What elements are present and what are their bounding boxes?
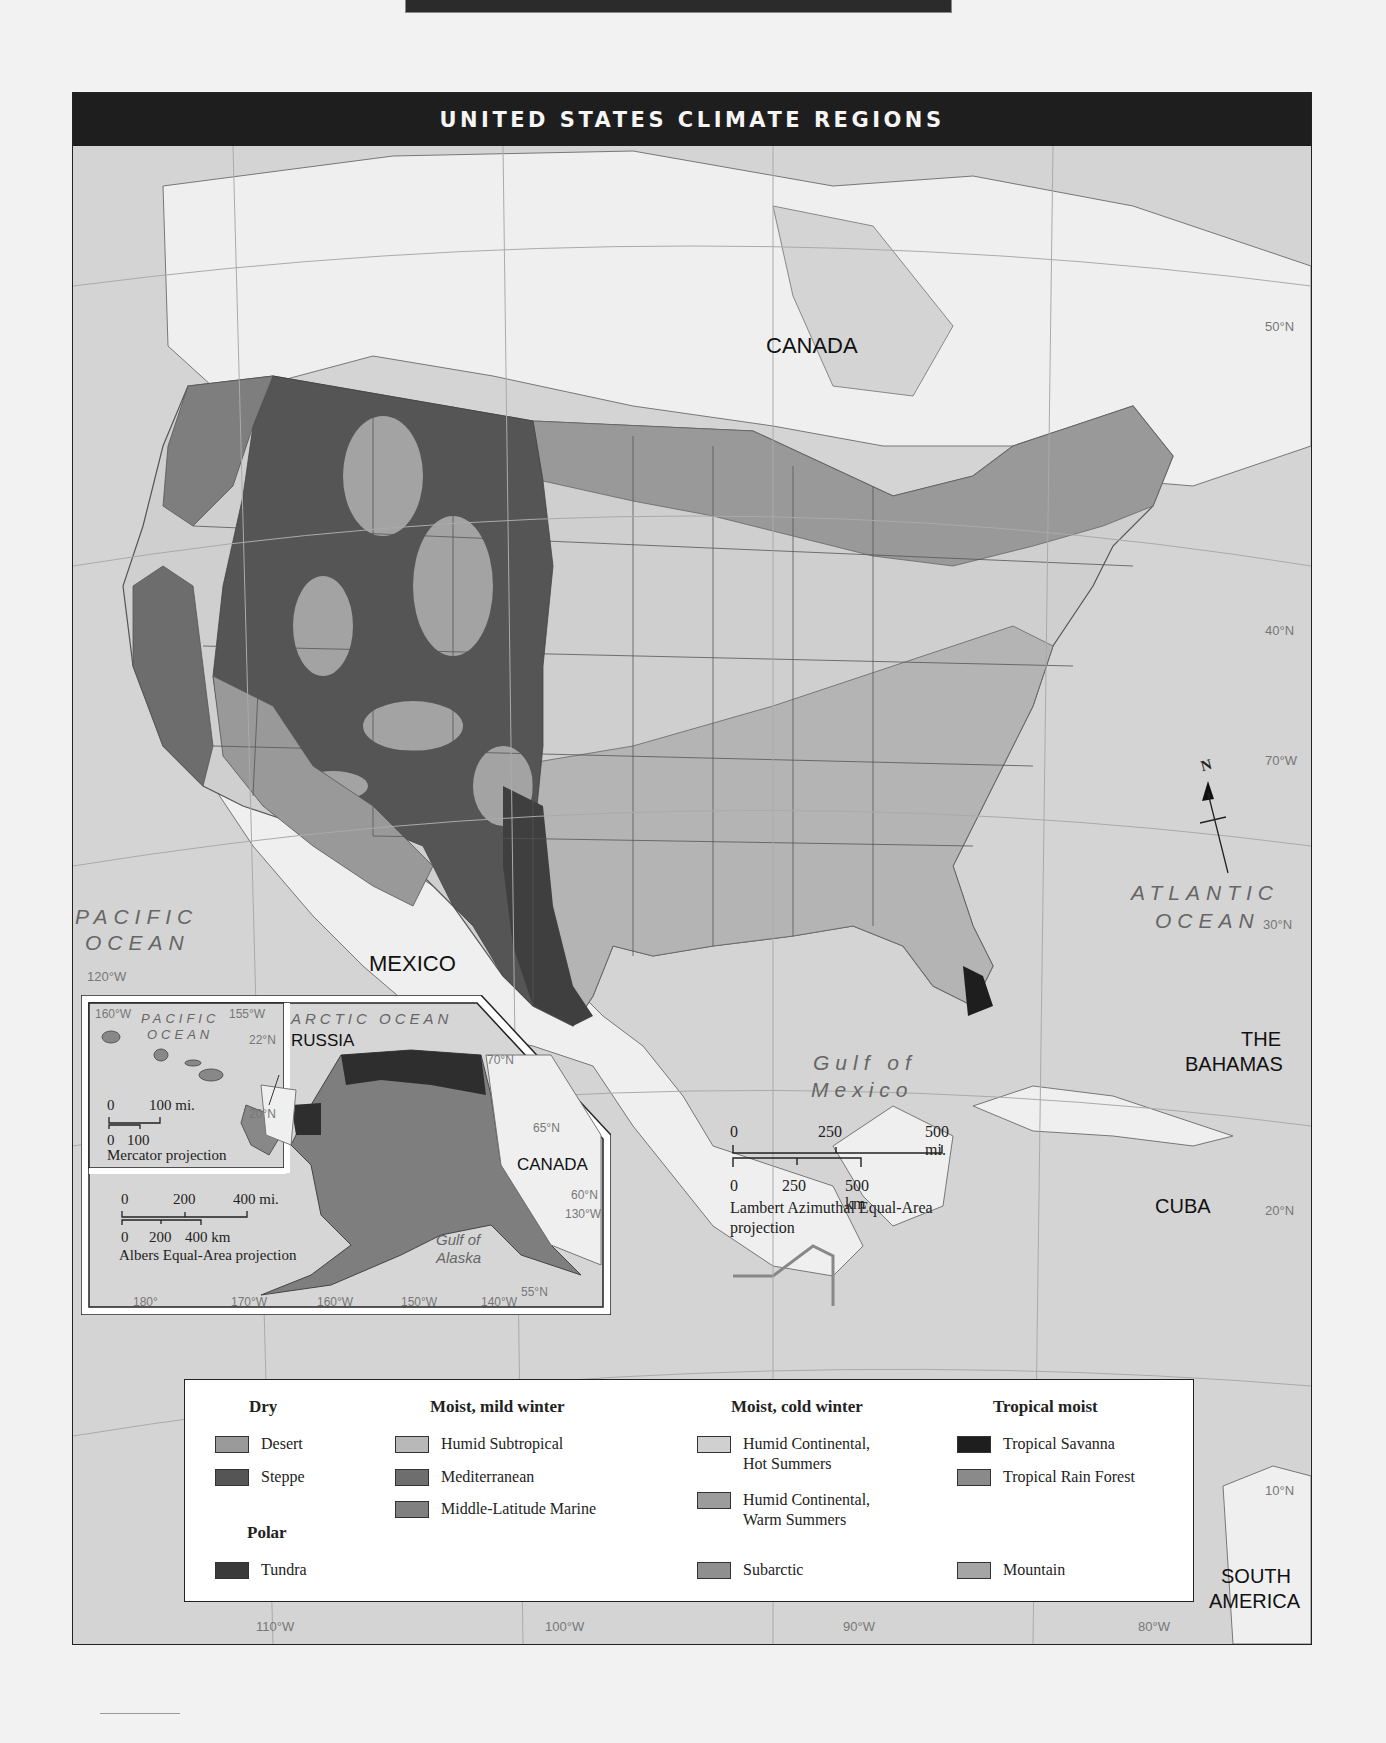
legend-item-humid-continental-hot: Humid Continental,Hot Summers — [697, 1434, 870, 1474]
label-south-america-2: AMERICA — [1209, 1590, 1300, 1613]
graticule-80w: 80°W — [1138, 1619, 1170, 1634]
scale-bar-graphic — [732, 1145, 952, 1175]
swatch-desert — [215, 1436, 249, 1453]
inset-hawaii-scale-mi-100: 100 mi. — [149, 1097, 195, 1114]
inset-alaska-projection: Albers Equal-Area projection — [119, 1247, 296, 1264]
label-canada: CANADA — [766, 333, 858, 359]
legend-item-subarctic: Subarctic — [697, 1560, 803, 1580]
swatch-mediterranean — [395, 1469, 429, 1486]
swatch-subarctic — [697, 1562, 731, 1579]
legend-heading-moist-mild-winter: Moist, mild winter — [430, 1397, 565, 1417]
label-gulf-of-mexico-1: Gulf of — [813, 1051, 917, 1075]
legend-item-humid-continental-warm: Humid Continental,Warm Summers — [697, 1490, 870, 1530]
label-atlantic-ocean-2: OCEAN — [1155, 909, 1260, 933]
legend-heading-moist-cold-winter: Moist, cold winter — [731, 1397, 863, 1417]
label-pacific-ocean-2: OCEAN — [85, 931, 190, 955]
compass-arrow-icon — [1198, 773, 1238, 883]
swatch-humid-continental-hot — [697, 1436, 731, 1453]
inset-55n: 55°N — [521, 1285, 548, 1299]
map-title: UNITED STATES CLIMATE REGIONS — [73, 93, 1311, 146]
graticule-10n: 10°N — [1265, 1483, 1294, 1498]
graticule-110w: 110°W — [256, 1619, 294, 1634]
scale-mi-0: 0 — [730, 1123, 738, 1141]
inset-alaska-scale-mi-400: 400 mi. — [233, 1191, 279, 1208]
swatch-tundra — [215, 1562, 249, 1579]
legend-item-steppe: Steppe — [215, 1467, 305, 1487]
inset-alaska-scale-km-200: 200 — [149, 1229, 172, 1246]
inset-gulf-of-alaska-2: Alaska — [436, 1249, 481, 1266]
legend: Dry Desert Steppe Polar Tundra Moist, mi… — [184, 1379, 1194, 1602]
legend-heading-dry: Dry — [249, 1397, 277, 1417]
scale-mi-250: 250 — [818, 1123, 842, 1141]
graticule-100w: 100°W — [545, 1619, 584, 1634]
swatch-mountain — [957, 1562, 991, 1579]
swatch-humid-subtropical — [395, 1436, 429, 1453]
inset-hawaii-projection: Mercator projection — [107, 1147, 227, 1164]
graticule-30n: 30°N — [1263, 917, 1292, 932]
graticule-20n: 20°N — [1265, 1203, 1294, 1218]
inset-60n: 60°N — [571, 1188, 598, 1202]
scale-km-250: 250 — [782, 1177, 806, 1195]
inset-alaska-hawaii: 160°W 155°W 22°N 20°N PACIFIC OCEAN 0 10… — [81, 995, 611, 1315]
top-dark-bar — [405, 0, 952, 13]
inset-arctic-ocean: ARCTIC OCEAN — [291, 1010, 452, 1027]
inset-hawaii-155w: 155°W — [229, 1007, 265, 1021]
swatch-humid-continental-warm — [697, 1492, 731, 1509]
inset-alaska-scale-km-0: 0 — [121, 1229, 129, 1246]
decorative-stroke — [100, 1713, 180, 1714]
swatch-middle-latitude-marine — [395, 1501, 429, 1518]
graticule-120w: 120°W — [87, 969, 126, 984]
inset-hawaii-22n: 22°N — [249, 1033, 276, 1047]
legend-item-humid-subtropical: Humid Subtropical — [395, 1434, 563, 1454]
inset-alaska-scale-km-400: 400 km — [185, 1229, 230, 1246]
inset-hawaii-ocean-2: OCEAN — [147, 1027, 213, 1042]
label-bahamas-2: BAHAMAS — [1185, 1053, 1283, 1076]
label-atlantic-ocean-1: ATLANTIC — [1131, 881, 1279, 905]
inset-150w: 150°W — [401, 1295, 437, 1309]
legend-heading-polar: Polar — [247, 1523, 287, 1543]
legend-heading-tropical-moist: Tropical moist — [993, 1397, 1098, 1417]
swatch-tropical-rain-forest — [957, 1469, 991, 1486]
scale-projection-line1: Lambert Azimuthal Equal-Area — [730, 1199, 933, 1217]
inset-gulf-of-alaska-1: Gulf of — [436, 1231, 480, 1248]
label-bahamas-1: THE — [1241, 1028, 1281, 1051]
legend-item-middle-latitude-marine: Middle-Latitude Marine — [395, 1499, 596, 1519]
legend-item-tundra: Tundra — [215, 1560, 307, 1580]
inset-hawaii-ocean-1: PACIFIC — [141, 1011, 219, 1026]
label-cuba: CUBA — [1155, 1195, 1211, 1218]
legend-item-tropical-savanna: Tropical Savanna — [957, 1434, 1115, 1454]
map-frame: UNITED STATES CLIMATE REGIONS — [72, 92, 1312, 1645]
inset-canada: CANADA — [517, 1155, 588, 1175]
inset-alaska-scale-mi-0: 0 — [121, 1191, 129, 1208]
legend-item-desert: Desert — [215, 1434, 303, 1454]
graticule-70w: 70°W — [1265, 753, 1297, 768]
inset-hawaii-160w: 160°W — [95, 1007, 131, 1021]
legend-item-mediterranean: Mediterranean — [395, 1467, 534, 1487]
label-south-america-1: SOUTH — [1221, 1565, 1291, 1588]
inset-140w: 140°W — [481, 1295, 517, 1309]
label-pacific-ocean-1: PACIFIC — [75, 905, 198, 929]
inset-160w: 160°W — [317, 1295, 353, 1309]
inset-130w: 130°W — [565, 1207, 601, 1221]
inset-hawaii-20n: 20°N — [249, 1107, 276, 1121]
inset-170w: 170°W — [231, 1295, 267, 1309]
inset-alaska-scale-mi-200: 200 — [173, 1191, 196, 1208]
inset-hawaii-scale-mi-0: 0 — [107, 1097, 115, 1114]
legend-item-mountain: Mountain — [957, 1560, 1065, 1580]
inset-russia: RUSSIA — [291, 1031, 354, 1051]
inset-65n: 65°N — [533, 1121, 560, 1135]
label-mexico: MEXICO — [369, 951, 456, 977]
scale-projection-line2: projection — [730, 1219, 795, 1237]
scale-km-0: 0 — [730, 1177, 738, 1195]
graticule-90w: 90°W — [843, 1619, 875, 1634]
inset-70n: 70°N — [487, 1053, 514, 1067]
swatch-steppe — [215, 1469, 249, 1486]
legend-item-tropical-rain-forest: Tropical Rain Forest — [957, 1467, 1135, 1487]
inset-alaska-scale-bar — [121, 1211, 261, 1231]
label-gulf-of-mexico-2: Mexico — [811, 1078, 914, 1102]
inset-180: 180° — [133, 1295, 158, 1309]
graticule-40n: 40°N — [1265, 623, 1294, 638]
graticule-50n: 50°N — [1265, 319, 1294, 334]
swatch-tropical-savanna — [957, 1436, 991, 1453]
